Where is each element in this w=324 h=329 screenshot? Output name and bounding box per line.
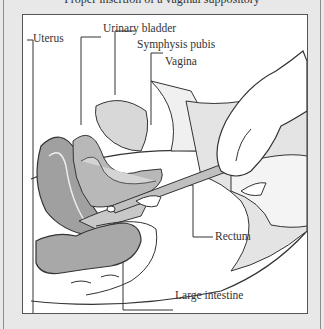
label-vagina: Vagina (165, 56, 197, 68)
label-large-intestine: Large intestine (175, 290, 243, 302)
label-urinary-bladder: Urinary bladder (103, 23, 176, 35)
frame-right-border (320, 0, 321, 329)
anatomy-shapes (31, 51, 307, 304)
label-symphysis-pubis: Symphysis pubis (137, 39, 215, 51)
label-rectum: Rectum (215, 231, 251, 243)
figure-caption: Proper insertion of a vaginal suppositor… (0, 0, 324, 7)
diagram-panel: Uterus Urinary bladder Symphysis pubis V… (22, 14, 308, 314)
label-uterus: Uterus (33, 33, 64, 45)
frame-left-border (3, 0, 4, 329)
